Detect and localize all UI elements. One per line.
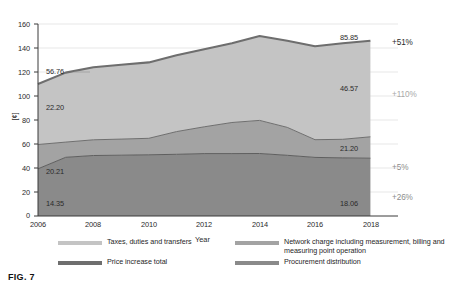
legend-item-taxes: Taxes, duties and transfers	[58, 238, 193, 247]
value-label-taxes-2018: 46.57	[340, 84, 358, 93]
growth-annotation-procurement: +26%	[392, 193, 413, 202]
y-tick-160: 160	[4, 20, 30, 29]
area-procurement-distribution	[38, 154, 370, 217]
legend-swatch-procurement-distribution-icon	[235, 261, 279, 265]
value-label-procurement-2018: 18.06	[340, 199, 358, 208]
growth-annotation-network: +5%	[392, 163, 408, 172]
legend-label-taxes: Taxes, duties and transfers	[107, 238, 192, 247]
y-tick-marks	[34, 24, 38, 216]
value-label-network-2018: 21.20	[340, 144, 358, 153]
y-tick-0: 0	[4, 211, 30, 220]
y-axis-title: [¢]	[10, 112, 19, 120]
x-tick-2018: 2018	[354, 220, 388, 229]
value-label-total-2006: 56.76	[46, 67, 64, 76]
y-tick-140: 140	[4, 44, 30, 53]
y-tick-20: 20	[4, 188, 30, 197]
legend-label-procurement-distribution: Procurement distribution	[284, 258, 361, 267]
legend-item-procurement-distribution: Procurement distribution	[235, 258, 467, 267]
value-label-taxes-2006: 22.20	[46, 103, 64, 112]
y-tick-40: 40	[4, 164, 30, 173]
x-tick-2008: 2008	[76, 220, 110, 229]
legend-swatch-network-charge-icon	[235, 241, 279, 245]
chart-plot-area: 160 140 120 100 80 60 40 20 0 [¢] 2006 2…	[0, 0, 470, 232]
figure-caption: FIG. 7	[8, 272, 35, 282]
x-tick-2010: 2010	[132, 220, 166, 229]
y-tick-100: 100	[4, 92, 30, 101]
x-tick-2014: 2014	[243, 220, 277, 229]
growth-annotation-total: +51%	[392, 38, 413, 47]
value-label-network-2006: 20.21	[46, 167, 64, 176]
y-tick-60: 60	[4, 140, 30, 149]
value-label-total-2018: 85.85	[340, 33, 358, 42]
x-tick-2006: 2006	[21, 220, 55, 229]
legend-item-price-increase-total: Price increase total	[58, 258, 193, 267]
legend-swatch-taxes-icon	[58, 241, 102, 245]
legend-swatch-price-increase-total-icon	[58, 261, 102, 265]
y-tick-120: 120	[4, 68, 30, 77]
chart-legend: Taxes, duties and transfers Price increa…	[0, 236, 470, 276]
x-tick-2012: 2012	[187, 220, 221, 229]
legend-item-network-charge: Network charge including measurement, bi…	[235, 238, 467, 255]
legend-label-network-charge: Network charge including measurement, bi…	[284, 238, 467, 255]
legend-label-price-increase-total: Price increase total	[107, 258, 167, 267]
figure-container: 160 140 120 100 80 60 40 20 0 [¢] 2006 2…	[0, 0, 470, 290]
value-label-procurement-2006: 14.35	[46, 199, 64, 208]
x-tick-2016: 2016	[298, 220, 332, 229]
growth-annotation-taxes: +110%	[392, 90, 417, 99]
